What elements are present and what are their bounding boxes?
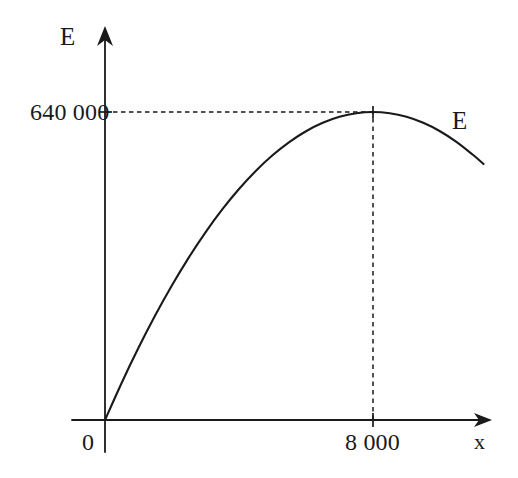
chart-plot-area [0,0,518,478]
curve-label-E: E [452,108,467,133]
y-tick-label-640000: 640 000 [30,100,109,124]
x-axis-label: x [474,431,485,453]
origin-tick-label: 0 [82,430,94,454]
x-tick-label-8000: 8 000 [345,430,400,454]
y-axis-label: E [60,24,75,49]
data-curve-E [105,112,484,420]
chart-figure: E x 0 640 000 8 000 E [0,0,518,478]
